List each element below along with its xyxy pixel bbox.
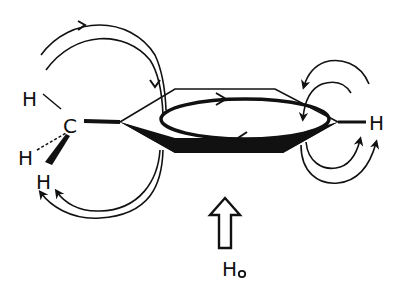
applied-field-label: H: [222, 257, 237, 281]
ring-h-label: H: [369, 111, 384, 135]
field-line-left-outer-top: [41, 25, 166, 110]
field-arrow-top-right: [150, 80, 160, 87]
field-line-right-outer-bottom: [301, 143, 376, 183]
applied-field-subscript-zero: [239, 271, 245, 277]
aromatic-ring-current-diagram: C H H H H H: [0, 0, 404, 294]
methyl-h-bottom-label: H: [36, 170, 51, 194]
field-line-right-inner-bottom: [306, 140, 360, 168]
field-line-left-inner-top: [46, 39, 163, 115]
methyl-h-left-label: H: [18, 146, 33, 170]
ring-to-methyl-bond: [84, 121, 120, 122]
field-line-left-outer-bottom: [41, 150, 163, 218]
methyl-h-bottom-wedge-bond: [45, 134, 70, 165]
applied-field-indicator: H: [210, 198, 245, 281]
methyl-h-top-label: H: [22, 87, 37, 111]
methyl-group: C H H H: [18, 87, 77, 194]
methyl-carbon-label: C: [63, 114, 77, 138]
field-arrow-top-left: [78, 21, 85, 30]
methyl-h-top-bond: [43, 94, 61, 109]
applied-field-arrow-icon: [210, 198, 240, 248]
